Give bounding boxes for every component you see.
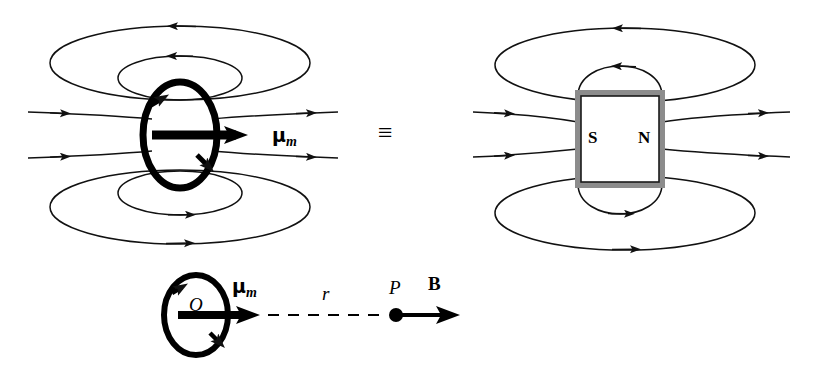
field-ellipse-outer-bottom (50, 170, 310, 244)
distance-label: r (322, 284, 329, 303)
magnetic-dipole-figure: μm ≡ S N O μm r P B (0, 0, 826, 382)
mu-glyph-bottom: μ (232, 275, 246, 297)
figure-canvas (0, 0, 826, 382)
south-pole-label: S (588, 129, 597, 146)
north-pole-label: N (638, 129, 650, 146)
mu-subscript-bottom: m (246, 285, 257, 300)
magnet-field-line-out-upper (662, 112, 790, 122)
magnet-field-line-out-lower (662, 149, 790, 157)
mu-subscript: m (286, 134, 297, 149)
mu-glyph: μ (272, 124, 286, 146)
field-ellipse-inner-bottom (118, 171, 242, 215)
bottom-moment-label: μm (232, 277, 257, 300)
magnet-field-line-in-upper (473, 112, 578, 122)
field-ellipse-outer-top (50, 26, 310, 100)
magnetic-moment-label: μm (272, 126, 297, 149)
origin-label: O (189, 295, 203, 314)
magnet-cap-bottom (578, 184, 662, 214)
field-line-out-upper (212, 112, 338, 119)
field-ellipse-inner-top (118, 56, 242, 100)
field-label: B (428, 274, 441, 293)
equivalence-symbol: ≡ (378, 120, 393, 146)
magnet-field-line-in-lower (473, 149, 578, 157)
field-line-out-lower (212, 151, 338, 158)
point-label: P (389, 278, 401, 297)
field-line-in-upper (28, 112, 152, 119)
field-line-in-lower (28, 151, 152, 158)
